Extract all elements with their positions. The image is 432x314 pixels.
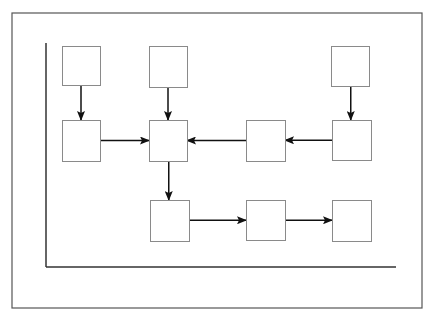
nodes xyxy=(63,47,372,242)
node-box-f[interactable] xyxy=(247,121,286,162)
node-box-c[interactable] xyxy=(332,47,370,87)
node-box-b[interactable] xyxy=(150,47,188,88)
node-box-i[interactable] xyxy=(247,201,286,241)
node-box-d[interactable] xyxy=(63,121,101,162)
edges xyxy=(81,85,351,220)
node-box-a[interactable] xyxy=(63,47,101,86)
node-box-j[interactable] xyxy=(333,201,372,242)
node-box-e[interactable] xyxy=(150,121,188,162)
node-box-g[interactable] xyxy=(333,121,372,161)
diagram-canvas xyxy=(0,0,432,314)
node-box-h[interactable] xyxy=(151,201,190,242)
